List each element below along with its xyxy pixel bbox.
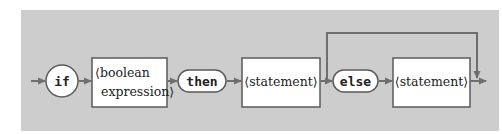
nonterminal-boolean-expression-line1: ⟨boolean <box>95 65 150 80</box>
node-then: then <box>178 70 226 92</box>
node-if: if <box>46 65 78 97</box>
node-statement-2: ⟨statement⟩ <box>393 58 470 107</box>
node-boolean-expression: ⟨boolean expression⟩ <box>92 58 174 107</box>
nonterminal-boolean-expression-line2: expression⟩ <box>101 84 174 99</box>
terminal-if-label: if <box>54 74 70 89</box>
if-then-else-syntax-diagram: if ⟨boolean expression⟩ then ⟨statement⟩… <box>0 0 502 134</box>
nonterminal-statement-2-label: ⟨statement⟩ <box>395 74 468 89</box>
node-else: else <box>333 70 378 92</box>
terminal-then-label: then <box>186 74 217 89</box>
nonterminal-statement-1-label: ⟨statement⟩ <box>244 74 317 89</box>
node-statement-1: ⟨statement⟩ <box>242 58 320 107</box>
terminal-else-label: else <box>340 74 371 89</box>
